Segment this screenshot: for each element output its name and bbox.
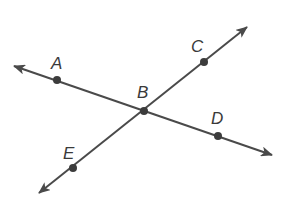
point-A: [53, 76, 61, 84]
label-A: A: [50, 54, 62, 73]
point-B: [140, 107, 148, 115]
point-D: [214, 132, 222, 140]
label-B: B: [137, 83, 148, 102]
intersecting-lines-diagram: A B C D E: [0, 0, 290, 204]
label-D: D: [211, 109, 223, 128]
point-C: [200, 58, 208, 66]
point-E: [69, 164, 77, 172]
label-C: C: [191, 37, 204, 56]
label-E: E: [63, 144, 75, 163]
